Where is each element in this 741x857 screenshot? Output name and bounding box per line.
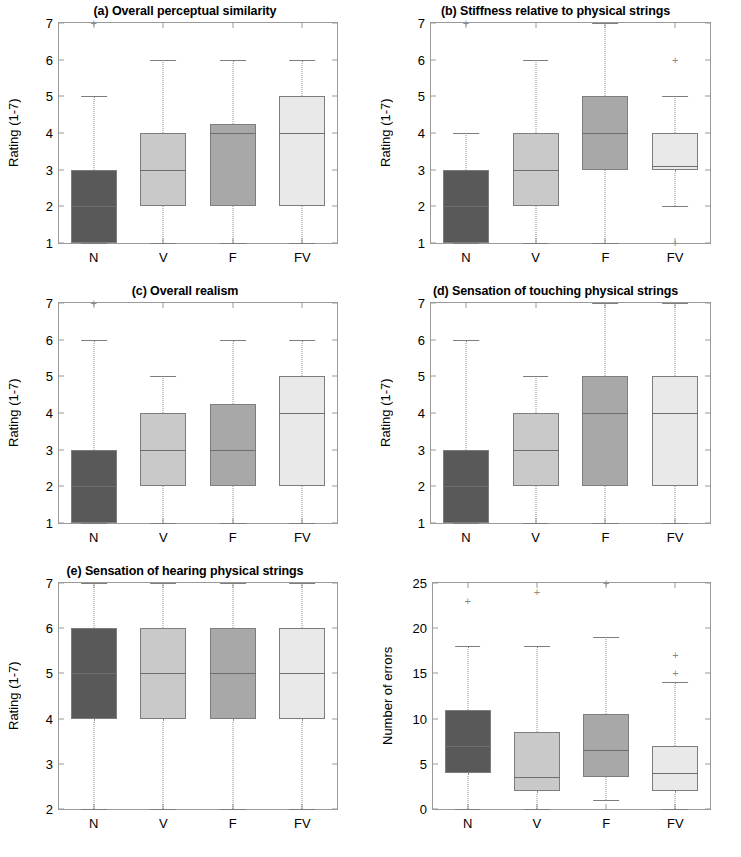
figure-panel-grid: (a) Overall perceptual similarityRating … bbox=[0, 0, 741, 857]
median-line bbox=[652, 773, 698, 774]
whisker-cap-lower bbox=[593, 523, 619, 524]
median-line bbox=[652, 166, 698, 167]
y-tick-label: 5 bbox=[46, 666, 59, 681]
whisker-cap-upper bbox=[289, 340, 315, 341]
y-tick-label: 7 bbox=[46, 576, 59, 591]
x-tick-label-v: V bbox=[533, 809, 542, 831]
box-iqr bbox=[652, 376, 698, 486]
whisker-cap-lower bbox=[150, 523, 176, 524]
y-tick-label: 7 bbox=[418, 16, 431, 31]
y-axis-label: Rating (1-7) bbox=[6, 582, 21, 810]
box-plot-fv bbox=[431, 303, 710, 523]
y-axis-label: Rating (1-7) bbox=[6, 302, 21, 524]
whisker-cap-lower bbox=[220, 243, 246, 244]
y-tick-label: 6 bbox=[46, 52, 59, 67]
whisker-cap-lower bbox=[523, 243, 549, 244]
y-tick-label: 4 bbox=[46, 406, 59, 421]
x-tick-label-f: F bbox=[229, 523, 237, 545]
y-tick-label: 3 bbox=[46, 442, 59, 457]
median-line bbox=[652, 413, 698, 414]
y-tick-label: 3 bbox=[418, 162, 431, 177]
whisker-cap-lower bbox=[455, 809, 481, 810]
whisker-cap-lower bbox=[150, 243, 176, 244]
whisker-cap-lower bbox=[663, 809, 689, 810]
plot-axes: 1234567NVFFV+ bbox=[58, 302, 338, 524]
outlier-marker: + bbox=[672, 54, 678, 65]
chart-panel-f: Number of errors0510152025NVFFV+++++ bbox=[370, 560, 741, 857]
x-tick-label-v: V bbox=[159, 809, 168, 831]
plot-area: 1234567NVFFV+ bbox=[59, 23, 337, 243]
box-plot-fv: ++ bbox=[433, 583, 710, 809]
x-tick-label-fv: FV bbox=[294, 809, 311, 831]
whisker-upper bbox=[675, 96, 676, 133]
y-tick-label: 2 bbox=[46, 802, 59, 817]
whisker-cap-lower bbox=[81, 243, 107, 244]
y-tick-label: 10 bbox=[413, 711, 433, 726]
x-tick-label-v: V bbox=[159, 523, 168, 545]
box-plot-fv: ++ bbox=[431, 23, 710, 243]
y-tick-label: 6 bbox=[418, 332, 431, 347]
whisker-lower bbox=[675, 170, 676, 207]
y-tick-label: 7 bbox=[418, 296, 431, 311]
whisker-cap-lower bbox=[524, 809, 550, 810]
y-tick-label: 1 bbox=[46, 516, 59, 531]
whisker-cap-lower bbox=[453, 523, 479, 524]
plot-axes: 234567NVFFV bbox=[58, 582, 338, 810]
y-tick-label: 7 bbox=[46, 296, 59, 311]
whisker-lower bbox=[302, 719, 303, 809]
whisker-upper bbox=[302, 60, 303, 97]
y-tick-label: 4 bbox=[418, 406, 431, 421]
whisker-cap-lower bbox=[220, 523, 246, 524]
whisker-cap-lower bbox=[662, 523, 688, 524]
whisker-upper bbox=[675, 303, 676, 376]
x-tick-label-v: V bbox=[531, 523, 540, 545]
y-tick-label: 6 bbox=[46, 621, 59, 636]
box-iqr bbox=[652, 746, 698, 791]
x-tick-label-fv: FV bbox=[667, 809, 684, 831]
x-tick-label-n: N bbox=[89, 243, 98, 265]
box-plot-fv bbox=[59, 303, 337, 523]
median-line bbox=[279, 413, 325, 414]
plot-area: 234567NVFFV bbox=[59, 583, 337, 809]
whisker-cap-lower bbox=[523, 523, 549, 524]
whisker-cap-lower bbox=[593, 243, 619, 244]
y-tick-label: 20 bbox=[413, 621, 433, 636]
x-tick-label-n: N bbox=[461, 243, 470, 265]
y-tick-label: 5 bbox=[418, 369, 431, 384]
whisker-cap-lower bbox=[289, 523, 315, 524]
outlier-marker: + bbox=[672, 650, 678, 661]
x-tick-label-v: V bbox=[159, 243, 168, 265]
chart-panel-e: (e) Sensation of hearing physical string… bbox=[0, 560, 370, 857]
x-tick-label-n: N bbox=[89, 809, 98, 831]
y-tick-label: 4 bbox=[418, 126, 431, 141]
y-axis-label: Rating (1-7) bbox=[378, 302, 393, 524]
whisker-cap-lower bbox=[289, 243, 315, 244]
plot-axes: 1234567NVFFV bbox=[430, 302, 711, 524]
plot-area: 1234567NVFFV+++ bbox=[431, 23, 710, 243]
y-tick-label: 7 bbox=[46, 16, 59, 31]
median-line bbox=[279, 133, 325, 134]
y-axis-label: Number of errors bbox=[380, 582, 395, 810]
whisker-cap-lower bbox=[81, 809, 107, 810]
y-tick-label: 6 bbox=[418, 52, 431, 67]
y-tick-label: 25 bbox=[413, 576, 433, 591]
x-tick-label-v: V bbox=[531, 243, 540, 265]
box-iqr bbox=[279, 96, 325, 206]
whisker-cap-lower bbox=[453, 243, 479, 244]
whisker-lower bbox=[302, 206, 303, 243]
box-iqr bbox=[652, 133, 698, 170]
x-tick-label-f: F bbox=[601, 523, 609, 545]
whisker-cap-upper bbox=[663, 682, 689, 683]
median-line bbox=[279, 673, 325, 674]
y-axis-label: Rating (1-7) bbox=[6, 22, 21, 244]
whisker-cap-lower bbox=[289, 809, 315, 810]
box-iqr bbox=[279, 376, 325, 486]
y-axis-label: Rating (1-7) bbox=[378, 22, 393, 244]
y-tick-label: 3 bbox=[46, 162, 59, 177]
x-tick-label-n: N bbox=[89, 523, 98, 545]
plot-area: 0510152025NVFFV+++++ bbox=[433, 583, 710, 809]
y-tick-label: 6 bbox=[46, 332, 59, 347]
whisker-lower bbox=[675, 791, 676, 809]
x-tick-label-fv: FV bbox=[294, 243, 311, 265]
outlier-marker: + bbox=[672, 668, 678, 679]
